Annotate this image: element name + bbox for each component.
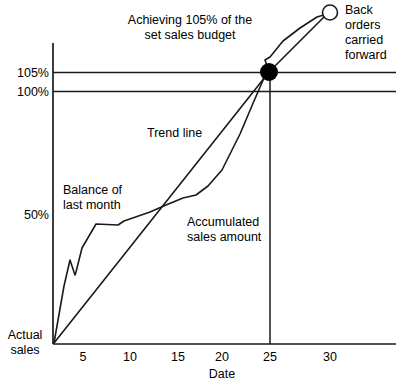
y-tick-label-100: 100%: [0, 85, 49, 100]
annotation-accumulated-line2: sales amount: [187, 230, 261, 245]
annotation-back-orders-line2: orders: [345, 18, 380, 33]
x-axis-title: Date: [192, 367, 252, 382]
y-tick-label-105: 105%: [0, 66, 49, 81]
x-tick-label-10: 10: [115, 350, 145, 365]
annotation-budget-line1: Achieving 105% of the: [114, 13, 266, 28]
series-trend-line: [54, 14, 327, 343]
annotation-accumulated-line1: Accumulated: [187, 215, 259, 230]
annotation-trend-line: Trend line: [147, 126, 202, 141]
annotation-back-orders-line3: carried: [345, 33, 383, 48]
x-tick-label-20: 20: [207, 350, 237, 365]
series-accumulated-sales: [54, 14, 327, 343]
origin-label-sales: sales: [0, 343, 50, 358]
annotation-budget-line2: set sales budget: [114, 28, 266, 43]
chart-canvas: [0, 0, 399, 386]
origin-label-actual: Actual: [0, 328, 50, 343]
annotation-balance-line1: Balance of: [63, 183, 122, 198]
x-tick-label-30: 30: [315, 350, 345, 365]
back-orders-marker-icon: [323, 5, 338, 20]
budget-achieved-marker-icon: [260, 63, 278, 81]
annotation-back-orders-line4: forward: [345, 48, 387, 63]
x-tick-label-15: 15: [163, 350, 193, 365]
annotation-back-orders-line1: Back: [345, 3, 373, 18]
x-tick-label-25: 25: [255, 350, 285, 365]
y-tick-label-50: 50%: [0, 208, 49, 223]
annotation-balance-line2: last month: [63, 198, 121, 213]
x-tick-label-5: 5: [68, 350, 98, 365]
sales-budget-chart: 105% 100% 50% Actual sales 5 10 15 20 25…: [0, 0, 399, 386]
